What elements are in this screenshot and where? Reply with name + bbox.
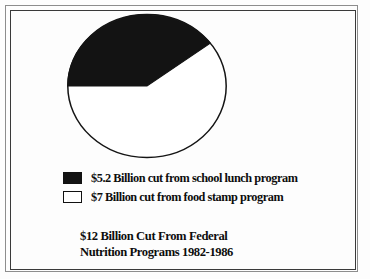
- caption-line-1: $12 Billion Cut From Federal: [80, 228, 330, 244]
- chart-caption: $12 Billion Cut From Federal Nutrition P…: [80, 228, 330, 260]
- legend-item-food-stamp: $7 Billion cut from food stamp program: [63, 188, 353, 206]
- legend-item-school-lunch: $5.2 Billion cut from school lunch progr…: [63, 169, 353, 187]
- figure-root: $5.2 Billion cut from school lunch progr…: [0, 0, 370, 279]
- legend: $5.2 Billion cut from school lunch progr…: [63, 169, 353, 207]
- pie-chart: [66, 13, 228, 159]
- legend-item-label: $7 Billion cut from food stamp program: [91, 191, 283, 204]
- legend-swatch-hollow-icon: [63, 191, 82, 203]
- caption-line-2: Nutrition Programs 1982-1986: [80, 244, 330, 260]
- pie-chart-svg: [66, 13, 228, 159]
- legend-swatch-filled-icon: [63, 172, 82, 184]
- legend-item-label: $5.2 Billion cut from school lunch progr…: [91, 172, 297, 185]
